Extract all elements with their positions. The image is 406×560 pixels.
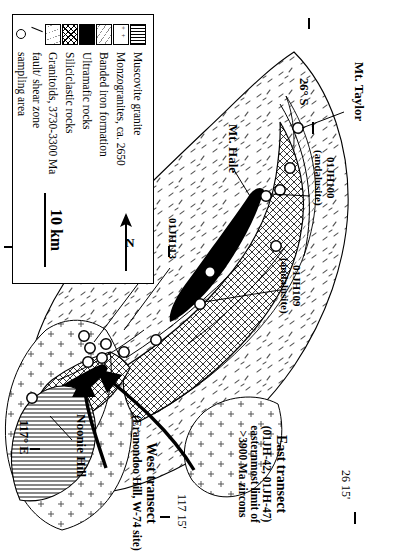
east-transect-line2: easternmost limit of: [249, 392, 261, 556]
scale-bar-line: [44, 193, 46, 267]
legend-item-granitoids: Granitoids, 3730-3300 Ma: [45, 24, 62, 174]
west-transect-site: (Eranondoo Hill, W-74 site): [131, 398, 143, 560]
legend-item-ultramafic-rocks: Ultramafic rocks: [79, 24, 96, 130]
margin-tick-inner-1: [168, 246, 170, 257]
graticule-label-26s: 26° S: [297, 78, 310, 106]
graticule-label-2615: 26 15': [339, 470, 352, 499]
sample-id: 01JH109: [290, 258, 302, 314]
west-transect-annotation: West transect (Eranondoo Hill, W-74 site…: [131, 398, 158, 560]
north-arrow: N: [111, 211, 141, 275]
scale-bar: 10 km: [44, 193, 65, 267]
legend-item-sampling-area: sampling area: [14, 24, 31, 116]
sample-label-01jh109: 01JH109 (andalusite): [279, 258, 302, 314]
map-canvas: Mt. Taylor Mt. Hale Noonie Hill 01JH100 …: [0, 0, 406, 560]
legend-symbol-sampling-area: [15, 24, 31, 45]
map-legend: Muscovite granite Monzogranites, ca. 265…: [12, 14, 154, 284]
sample-note: (andalusite): [279, 258, 291, 314]
place-label-mt-hale: Mt. Hale: [226, 124, 240, 173]
legend-swatch-muscovite-granite: [131, 24, 147, 45]
east-transect-line3: >3900 Ma zircons: [237, 392, 249, 556]
legend-item-fault-shear-zone: fault/ shear zone: [29, 24, 46, 128]
place-label-mt-taylor: Mt. Taylor: [352, 62, 366, 121]
east-transect-annotation: East transect (01JH-42, 01JH-47) eastern…: [237, 392, 288, 556]
margin-tick-left-1: [308, 18, 310, 29]
legend-label-ultramafic-rocks: Ultramafic rocks: [82, 52, 94, 130]
legend-swatch-granitoids: [46, 24, 62, 45]
scale-bar-label: 10 km: [47, 193, 65, 267]
west-transect-title: West transect: [143, 398, 158, 560]
place-label-noonie-hill: Noonie Hill: [74, 414, 88, 477]
svg-text:N: N: [125, 235, 135, 250]
legend-symbol-fault-shear-zone: [30, 24, 46, 45]
legend-swatch-siliciclastic-rocks: [63, 24, 79, 45]
graticule-tick-26s: [312, 122, 314, 134]
sample-note: (andalusite): [313, 150, 325, 206]
legend-item-monzogranites: Monzogranites, ca. 2650: [113, 24, 130, 166]
graticule-label-11715: 117 15': [175, 494, 188, 529]
legend-label-monzogranites: Monzogranites, ca. 2650: [116, 52, 128, 166]
geological-map-figure: Mt. Taylor Mt. Hale Noonie Hill 01JH100 …: [0, 0, 406, 560]
legend-item-muscovite-granite: Muscovite granite: [130, 24, 147, 135]
legend-label-granitoids: Granitoids, 3730-3300 Ma: [48, 52, 60, 174]
legend-label-fault-shear-zone: fault/ shear zone: [32, 52, 44, 128]
graticule-tick-11715: [160, 516, 170, 518]
legend-item-banded-iron-formation: Banded iron formation: [96, 24, 113, 157]
legend-label-muscovite-granite: Muscovite granite: [133, 52, 145, 135]
east-transect-samples: (01JH-42, 01JH-47): [261, 392, 273, 556]
legend-swatch-monzogranites: [114, 24, 130, 45]
graticule-tick-117e: [30, 448, 40, 450]
legend-item-siliciclastic-rocks: Siliciclastic rocks: [62, 24, 79, 133]
graticule-label-117e: 117° E: [17, 420, 30, 455]
legend-label-siliciclastic-rocks: Siliciclastic rocks: [65, 52, 77, 133]
legend-label-sampling-area: sampling area: [17, 52, 29, 116]
east-transect-title: East transect: [273, 392, 288, 556]
legend-swatch-banded-iron-formation: [97, 24, 113, 45]
graticule-tick-2615: [354, 512, 356, 524]
legend-swatch-ultramafic-rocks: [80, 24, 96, 45]
sample-id: 01JH100: [324, 150, 336, 206]
sample-label-01jh100: 01JH100 (andalusite): [313, 150, 336, 206]
legend-label-banded-iron-formation: Banded iron formation: [99, 52, 111, 157]
